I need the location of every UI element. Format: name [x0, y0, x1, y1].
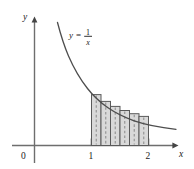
x-tick-label-1: 1	[89, 151, 94, 161]
curve-label-equals: =	[76, 30, 81, 40]
curve-label-y: y	[68, 30, 73, 40]
midpoint-rule-figure: y x 0 1 2 y = 1 x	[0, 0, 194, 169]
y-axis-label: y	[22, 12, 28, 22]
x-tick-label-2: 2	[146, 151, 151, 161]
curve-label-numerator: 1	[86, 28, 90, 37]
x-axis-label: x	[178, 149, 184, 159]
figure-container: y x 0 1 2 y = 1 x	[0, 0, 194, 169]
curve-label-denominator: x	[85, 38, 90, 47]
origin-label: 0	[21, 151, 26, 161]
rectangle-6	[139, 116, 149, 145]
